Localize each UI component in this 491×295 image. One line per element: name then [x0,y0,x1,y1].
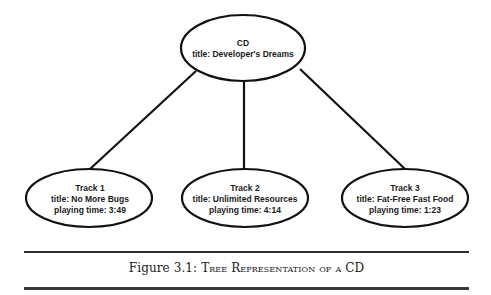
caption-prefix: Figure 3.1: [129,261,201,275]
node-cd-name: CD [192,38,294,49]
caption-rule-bottom [24,287,469,290]
caption-title: Tree Representation of a CD [201,261,364,275]
edge-cd-track1 [90,71,196,169]
node-track3-label: Track 3 title: Fat-Free Fast Food playin… [357,183,454,216]
node-cd-label: CD title: Developer's Dreams [192,38,294,60]
node-track2-time: playing time: 4:14 [193,205,298,216]
node-track2-name: Track 2 [193,183,298,194]
node-track3-title: title: Fat-Free Fast Food [357,194,454,205]
figure-caption: Figure 3.1: Tree Representation of a CD [24,261,469,275]
node-track1-label: Track 1 title: No More Bugs playing time… [51,183,129,216]
node-track2-label: Track 2 title: Unlimited Resources playi… [193,183,298,216]
caption-rule-top [24,251,469,253]
node-track3-time: playing time: 1:23 [357,205,454,216]
node-track1-time: playing time: 3:49 [51,205,129,216]
node-track1-name: Track 1 [51,183,129,194]
node-cd-title: title: Developer's Dreams [192,49,294,60]
node-track3-name: Track 3 [357,183,454,194]
node-track2-title: title: Unlimited Resources [193,194,298,205]
node-track1-title: title: No More Bugs [51,194,129,205]
edge-cd-track3 [300,69,405,169]
